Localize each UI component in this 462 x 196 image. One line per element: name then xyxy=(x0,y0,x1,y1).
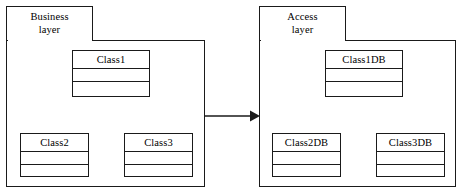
class-name-class2db: Class2DB xyxy=(273,134,340,152)
class-attributes-class2 xyxy=(21,152,88,165)
class-name-class3db: Class3DB xyxy=(377,134,444,152)
class-attributes-class3 xyxy=(125,152,192,165)
package-access-layer-tab[interactable]: Access layer xyxy=(259,6,346,40)
package-business-layer-tab-seam xyxy=(8,39,92,42)
class-attributes-class2db xyxy=(273,152,340,165)
class-attributes-class1 xyxy=(73,69,149,82)
class-operations-class3db xyxy=(377,165,444,176)
package-access-layer-tab-seam xyxy=(261,39,345,42)
class-name-class1: Class1 xyxy=(73,51,149,69)
class-box-class2[interactable]: Class2 xyxy=(20,133,89,177)
class-attributes-class1db xyxy=(326,69,402,82)
class-operations-class2 xyxy=(21,165,88,176)
class-box-class3db[interactable]: Class3DB xyxy=(376,133,445,177)
class-operations-class2db xyxy=(273,165,340,176)
class-box-class1[interactable]: Class1 xyxy=(72,50,150,97)
dependency-arrowhead-icon xyxy=(250,111,260,122)
package-business-layer-label: Business layer xyxy=(30,11,68,36)
class-name-class1db: Class1DB xyxy=(326,51,402,69)
class-box-class1db[interactable]: Class1DB xyxy=(325,50,403,97)
class-box-class3[interactable]: Class3 xyxy=(124,133,193,177)
package-business-layer-tab[interactable]: Business layer xyxy=(6,6,93,40)
class-name-class2: Class2 xyxy=(21,134,88,152)
class-operations-class1 xyxy=(73,82,149,96)
uml-package-diagram: Business layer Class1 Class2 Class3 xyxy=(0,0,462,196)
class-operations-class3 xyxy=(125,165,192,176)
class-name-class3: Class3 xyxy=(125,134,192,152)
class-attributes-class3db xyxy=(377,152,444,165)
dependency-arrow-business-to-access[interactable] xyxy=(203,105,263,127)
class-box-class2db[interactable]: Class2DB xyxy=(272,133,341,177)
package-access-layer-label: Access layer xyxy=(287,11,317,36)
class-operations-class1db xyxy=(326,82,402,96)
